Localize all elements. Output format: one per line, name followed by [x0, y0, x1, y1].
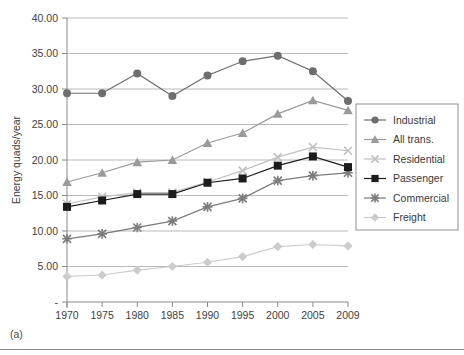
x-tick-label: 2000 — [266, 309, 290, 321]
marker-diamond — [98, 270, 107, 279]
x-tick-label: 2009 — [336, 309, 360, 321]
marker-square — [133, 190, 141, 198]
marker-square — [309, 152, 317, 160]
y-tick-label: 30.00 — [32, 83, 58, 95]
y-tick-label: 20.00 — [32, 154, 58, 166]
x-tick-label: 1990 — [196, 309, 220, 321]
marker-circle — [204, 72, 212, 80]
marker-circle — [133, 69, 141, 77]
marker-triangle — [343, 106, 353, 115]
y-tick-label: 10.00 — [32, 225, 58, 237]
marker-asterisk — [62, 234, 72, 244]
x-tick-label: 1975 — [90, 309, 114, 321]
marker-circle — [63, 89, 71, 97]
marker-triangle — [273, 109, 283, 118]
x-tick-label: 1985 — [161, 309, 185, 321]
legend-label: All trans. — [393, 133, 434, 145]
marker-asterisk — [238, 194, 248, 204]
marker-circle — [274, 52, 282, 60]
marker-triangle — [238, 128, 248, 137]
marker-triangle — [203, 138, 213, 147]
y-tick-label: 35.00 — [32, 47, 58, 59]
legend-label: Industrial — [393, 114, 436, 126]
marker-asterisk — [132, 223, 142, 233]
marker-square — [204, 179, 212, 187]
marker-asterisk — [203, 202, 213, 212]
marker-diamond — [343, 241, 352, 250]
marker-asterisk — [273, 176, 283, 186]
marker-square — [63, 203, 71, 211]
y-tick-label: - — [55, 296, 59, 308]
marker-square — [98, 196, 106, 204]
figure-caption: (a) — [10, 328, 23, 340]
marker-asterisk — [97, 229, 107, 239]
marker-asterisk — [308, 171, 318, 181]
y-tick-label: 15.00 — [32, 189, 58, 201]
marker-square — [239, 174, 247, 182]
marker-square — [371, 175, 378, 182]
marker-circle — [98, 89, 106, 97]
marker-diamond — [238, 252, 247, 261]
legend: IndustrialAll trans.ResidentialPassenger… — [356, 104, 458, 230]
figure-panel: -5.0010.0015.0020.0025.0030.0035.0040.00… — [0, 0, 464, 355]
marker-circle — [168, 92, 176, 100]
marker-asterisk — [168, 216, 178, 226]
marker-circle — [344, 97, 352, 105]
marker-circle — [371, 116, 378, 123]
y-tick-label: 5.00 — [38, 260, 59, 272]
marker-diamond — [62, 272, 71, 281]
marker-triangle — [308, 96, 318, 105]
legend-label: Freight — [393, 211, 426, 223]
y-axis-title: Energy quads/year — [10, 115, 22, 204]
marker-diamond — [273, 242, 282, 251]
marker-diamond — [203, 258, 212, 267]
marker-diamond — [308, 240, 317, 249]
series-industrial — [63, 52, 352, 105]
legend-label: Residential — [393, 153, 445, 165]
marker-square — [344, 163, 352, 171]
series-freight — [62, 240, 352, 281]
x-tick-label: 1970 — [55, 309, 79, 321]
marker-circle — [239, 57, 247, 65]
marker-x — [239, 167, 247, 175]
marker-square — [274, 162, 282, 170]
y-tick-label: 40.00 — [32, 12, 58, 24]
line-chart: -5.0010.0015.0020.0025.0030.0035.0040.00… — [0, 0, 464, 355]
marker-diamond — [168, 262, 177, 271]
y-tick-label: 25.00 — [32, 118, 58, 130]
marker-circle — [309, 67, 317, 75]
x-tick-label: 1980 — [126, 309, 150, 321]
marker-triangle — [97, 168, 107, 177]
x-tick-label: 1995 — [231, 309, 255, 321]
marker-asterisk — [371, 194, 380, 203]
footer-divider — [0, 349, 464, 350]
legend-label: Commercial — [393, 192, 449, 204]
legend-label: Passenger — [393, 172, 444, 184]
marker-square — [168, 190, 176, 198]
x-tick-label: 2005 — [301, 309, 325, 321]
